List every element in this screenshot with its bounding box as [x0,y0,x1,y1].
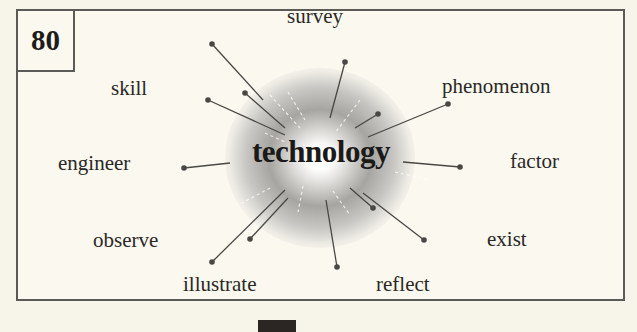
word-illustrate: illustrate [183,272,256,297]
word-reflect: reflect [376,272,430,297]
center-word: technology [236,134,406,170]
word-survey: survey [287,4,343,29]
word-observe: observe [93,228,158,253]
word-exist: exist [487,227,527,252]
page-tab-marker [258,320,296,332]
word-phenomenon: phenomenon [442,74,550,99]
word-engineer: engineer [58,151,130,176]
word-factor: factor [510,149,559,174]
word-skill: skill [111,76,147,101]
